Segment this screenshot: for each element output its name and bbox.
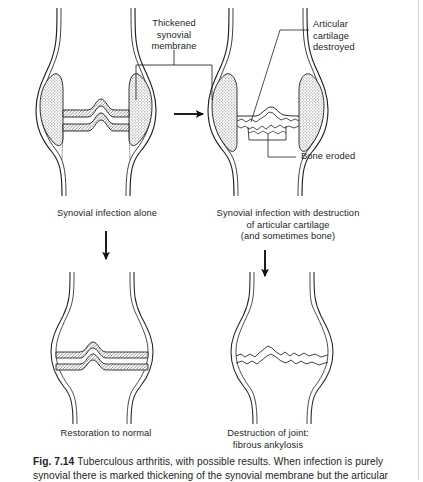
panel-top-right-drawing [208, 8, 328, 196]
label-bone-eroded: Bone eroded [301, 151, 391, 163]
caption-line-2: synovial there is marked thickening of t… [33, 470, 388, 481]
figure-number: Fig. 7.14 [33, 456, 74, 467]
figure-caption: Fig. 7.14 Tuberculous arthritis, with po… [33, 455, 403, 482]
caption-line-1: Tuberculous arthritis, with possible res… [77, 456, 383, 467]
label-thickened-synovial-membrane: Thickened synovial membrane [134, 18, 214, 53]
label-articular-cartilage-destroyed: Articular cartilage destroyed [313, 19, 395, 54]
page-edge-line [418, 0, 419, 480]
panel-caption-bottom-left: Restoration to normal [36, 428, 176, 440]
panel-caption-top-right: Synovial infection with destruction of a… [192, 208, 384, 243]
panel-bottom-right-drawing [231, 272, 333, 424]
panel-caption-bottom-right: Destruction of joint: fibrous ankylosis [206, 428, 330, 451]
panel-bottom-left-drawing [51, 272, 153, 424]
leader-line-bone-eroded [268, 134, 296, 157]
panel-caption-top-left: Synovial infection alone [24, 208, 190, 220]
